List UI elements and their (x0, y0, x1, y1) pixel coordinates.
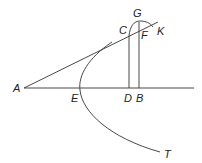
label-g: G (133, 7, 142, 19)
label-f: F (141, 29, 149, 41)
label-d: D (124, 92, 132, 104)
tangent-line-ak (24, 22, 158, 88)
label-e: E (71, 92, 79, 104)
label-t: T (164, 148, 172, 160)
label-a: A (12, 82, 20, 94)
parabola-curve (80, 42, 160, 152)
label-c: C (119, 24, 127, 36)
geometry-diagram: A C G F K E D B T (0, 0, 202, 163)
label-k: K (157, 25, 165, 37)
label-b: B (136, 92, 143, 104)
